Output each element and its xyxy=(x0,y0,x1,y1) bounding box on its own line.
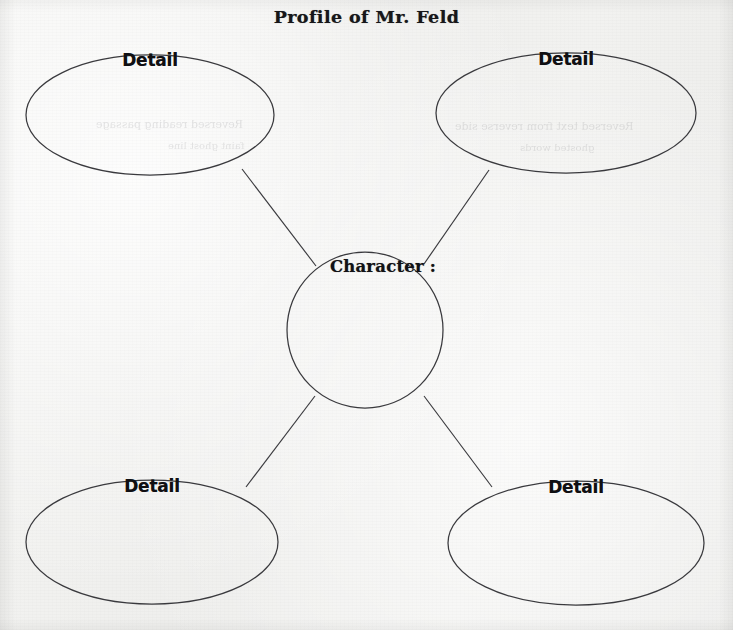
detail-label-top-right: Detail xyxy=(538,49,594,69)
detail-ellipse-bottom-left[interactable] xyxy=(26,480,278,604)
detail-ellipse-bottom-right[interactable] xyxy=(448,481,704,605)
page-title: Profile of Mr. Feld xyxy=(0,7,733,27)
detail-ellipse-top-left[interactable] xyxy=(26,55,274,175)
worksheet-page: Reversed reading passage faint ghost lin… xyxy=(0,0,733,630)
detail-label-bottom-right: Detail xyxy=(548,477,604,497)
character-label: Character : xyxy=(330,257,436,276)
detail-label-top-left: Detail xyxy=(122,50,178,70)
diagram-nodes xyxy=(26,53,704,605)
connector-line-bottom-left xyxy=(246,396,315,487)
detail-label-bottom-left: Detail xyxy=(124,476,180,496)
connector-line-bottom-right xyxy=(424,396,492,487)
graphic-organizer-diagram xyxy=(0,0,733,630)
connector-lines xyxy=(242,169,492,487)
connector-line-top-right xyxy=(424,170,489,264)
connector-line-top-left xyxy=(242,169,316,266)
detail-ellipse-top-right[interactable] xyxy=(436,53,696,173)
